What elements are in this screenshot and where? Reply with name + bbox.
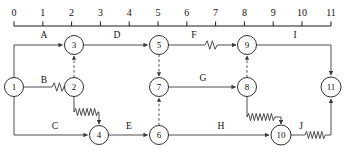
node-3[interactable]: 3: [65, 36, 84, 55]
edge-label-J: J: [299, 121, 303, 131]
axis-tick-label-10: 10: [297, 7, 307, 18]
node-label: 9: [245, 40, 250, 50]
edge-label-A: A: [41, 30, 48, 40]
node-label: 7: [157, 82, 162, 92]
axis-tick-label-9: 9: [271, 7, 276, 18]
edge-label-C: C: [52, 121, 58, 131]
edge-label-B: B: [41, 75, 47, 85]
axis-tick-label-4: 4: [127, 7, 132, 18]
node-label: 3: [72, 40, 77, 50]
edge-J-wavy: [305, 99, 331, 139]
node-2[interactable]: 2: [65, 78, 84, 97]
edge-label-F: F: [191, 30, 196, 40]
edge-label-G: G: [200, 73, 207, 83]
axis-ticks: [14, 22, 331, 27]
axis-tick-label-11: 11: [326, 7, 336, 18]
node-1[interactable]: 1: [5, 78, 24, 97]
edge-C-path: [14, 97, 88, 136]
node-5[interactable]: 5: [150, 36, 169, 55]
node-8[interactable]: 8: [238, 78, 257, 97]
axis-tick-label-7: 7: [213, 7, 218, 18]
node-label: 2: [72, 82, 77, 92]
axis-tick-label-1: 1: [40, 7, 45, 18]
node-label: 6: [157, 130, 162, 140]
node-7[interactable]: 7: [150, 78, 169, 97]
aoe-network-diagram: 0 1 2 3 4 5 6 7 8 9 10 11: [0, 0, 355, 158]
slack-8-10-wavy: [247, 113, 281, 124]
edge-F-wavy: [205, 41, 236, 49]
edges-layer: [14, 41, 331, 139]
edge-B-wavy: [52, 83, 64, 91]
axis-tick-label-3: 3: [98, 7, 103, 18]
node-label: 1: [12, 82, 17, 92]
edge-label-D: D: [114, 30, 121, 40]
edge-label-E: E: [126, 121, 132, 131]
edge-label-I: I: [293, 30, 296, 40]
node-label: 4: [97, 130, 102, 140]
axis-tick-label-8: 8: [242, 7, 247, 18]
diagram-canvas: 0 1 2 3 4 5 6 7 8 9 10 11: [0, 0, 355, 158]
node-10[interactable]: 10: [271, 125, 291, 145]
time-axis: 0 1 2 3 4 5 6 7 8 9 10 11: [12, 7, 336, 26]
node-11[interactable]: 11: [321, 77, 341, 97]
slack-2-4-wavy: [74, 108, 99, 124]
node-9[interactable]: 9: [238, 36, 257, 55]
node-label: 5: [157, 40, 162, 50]
axis-tick-labels: 0 1 2 3 4 5 6 7 8 9 10 11: [12, 7, 336, 18]
axis-tick-label-0: 0: [12, 7, 17, 18]
node-label: 11: [327, 82, 336, 92]
edge-I-path: [257, 45, 332, 75]
axis-tick-label-2: 2: [69, 7, 74, 18]
edge-label-H: H: [218, 121, 225, 131]
node-6[interactable]: 6: [150, 126, 169, 145]
axis-tick-label-6: 6: [184, 7, 189, 18]
node-label: 10: [277, 130, 287, 140]
edge-A-path: [14, 45, 63, 78]
node-4[interactable]: 4: [90, 126, 109, 145]
node-label: 8: [245, 82, 250, 92]
axis-tick-label-5: 5: [156, 7, 161, 18]
